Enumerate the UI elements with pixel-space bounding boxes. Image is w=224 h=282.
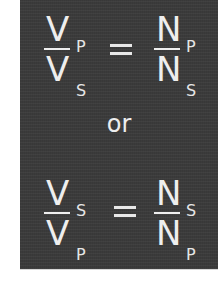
numerator: N S	[156, 176, 181, 210]
connector-or: or	[20, 110, 218, 138]
denominator: V P	[46, 216, 69, 250]
numerator: V S	[46, 176, 69, 210]
equals-sign	[110, 44, 132, 56]
equals-sign	[114, 206, 136, 218]
numerator-symbol: V	[46, 9, 69, 49]
numerator-symbol: V	[46, 173, 69, 213]
denominator-subscript: S	[186, 74, 196, 108]
denominator: N S	[156, 52, 181, 86]
denominator-subscript: P	[76, 238, 86, 272]
numerator: V P	[46, 12, 69, 46]
denominator-subscript: S	[76, 74, 86, 108]
fraction-vp-over-vs: V P V S	[44, 12, 104, 92]
numerator: N P	[156, 12, 181, 46]
numerator-subscript: P	[76, 30, 86, 64]
numerator-subscript: S	[186, 194, 196, 228]
fraction-vs-over-vp: V S V P	[44, 176, 104, 256]
denominator-symbol: N	[156, 213, 181, 253]
denominator-symbol: N	[156, 49, 181, 89]
denominator: N P	[156, 216, 181, 250]
numerator-subscript: S	[76, 194, 86, 228]
denominator-symbol: V	[46, 49, 69, 89]
numerator-symbol: N	[156, 9, 181, 49]
denominator-subscript: P	[186, 238, 196, 272]
denominator: V S	[46, 52, 69, 86]
fraction-np-over-ns: N P N S	[154, 12, 214, 92]
numerator-symbol: N	[156, 173, 181, 213]
numerator-subscript: P	[186, 30, 196, 64]
fraction-ns-over-np: N S N P	[154, 176, 214, 256]
formula-panel: V P V S N P N S or V	[20, 0, 218, 270]
denominator-symbol: V	[46, 213, 69, 253]
